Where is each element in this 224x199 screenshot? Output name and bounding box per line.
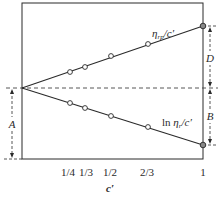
dimension-d: D — [204, 27, 216, 87]
data-point-marker — [68, 101, 73, 106]
data-point-marker — [83, 65, 88, 70]
tick-label: 1/3 — [79, 166, 94, 178]
tick-label: 1 — [200, 166, 206, 178]
tick-label: 1/2 — [103, 166, 117, 178]
series-label-ln-eta-r: ln ηr/c′ — [162, 116, 192, 130]
label-a: A — [8, 118, 16, 130]
data-point-marker — [109, 54, 114, 59]
data-point-marker — [146, 42, 151, 47]
tick-label: 1/4 — [61, 166, 76, 178]
label-b: B — [207, 110, 214, 122]
data-point-marker — [83, 106, 88, 111]
label-d: D — [205, 52, 214, 64]
data-point-marker — [109, 114, 114, 119]
data-point-marker — [200, 23, 206, 29]
x-axis-label: c′ — [106, 182, 114, 194]
data-point-marker — [146, 125, 151, 130]
dimension-b: B — [204, 89, 216, 144]
data-point-marker — [68, 70, 73, 75]
series-label-eta-rp: ηrp/c′ — [152, 27, 175, 41]
series-ln-eta-r: ln ηr/c′ — [22, 88, 206, 148]
diagram-canvas: A D B ηrp/c′ ln ηr/c′ — [0, 0, 224, 199]
dimension-a: A — [6, 89, 18, 158]
tick-label: 2/3 — [140, 166, 155, 178]
x-axis-ticks: 1/4 1/3 1/2 2/3 1 — [61, 166, 206, 178]
plot-frame — [22, 3, 203, 159]
series-eta-rp: ηrp/c′ — [22, 23, 206, 88]
data-point-marker — [200, 142, 206, 148]
